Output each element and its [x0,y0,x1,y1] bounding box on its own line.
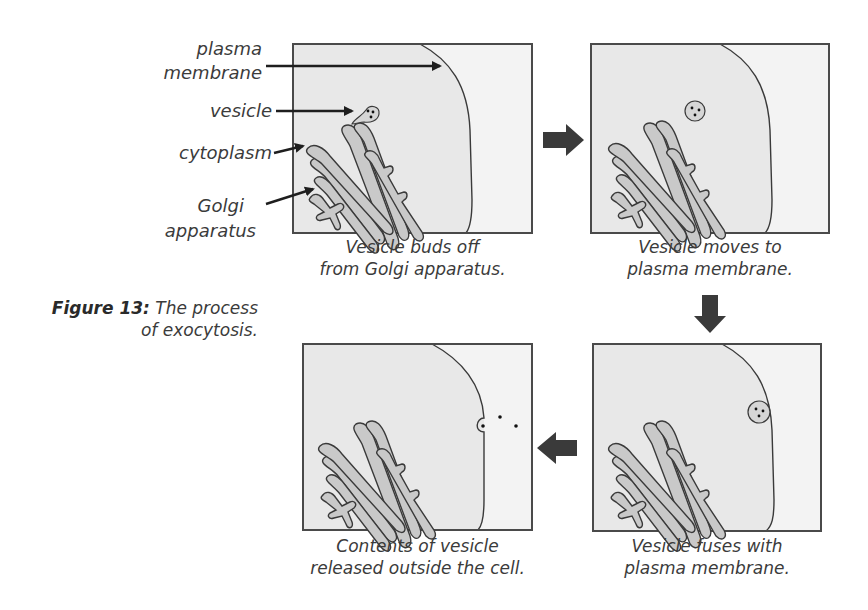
panel-2-caption: Vesicle moves to plasma membrane. [591,236,829,280]
figure-caption-line1: Figure 13: The process [52,297,258,319]
panel-2-caption-line1: Vesicle moves to [591,236,829,258]
fusing-vesicle-icon [748,401,770,423]
label-membrane: membrane [164,62,262,84]
figure-number: Figure 13: [52,298,150,318]
label-plasma: plasma [197,38,262,60]
panel-4-caption-line2: released outside the cell. [290,557,545,579]
figure-title-part2: of exocytosis. [52,319,258,341]
panel-1-vesicle-buds-off [266,44,532,253]
arrow-left-icon [537,432,577,464]
arrow-right-icon [543,124,584,156]
label-cytoplasm: cytoplasm [179,142,272,164]
vesicle-icon [685,101,705,121]
panel-4-contents-released [303,344,532,551]
figure-title-part1: The process [155,298,258,318]
panel-1-caption-line2: from Golgi apparatus. [293,258,532,280]
panel-1-caption-line1: Vesicle buds off [293,236,532,258]
panel-2-vesicle-moves [591,44,829,251]
panel-2-caption-line2: plasma membrane. [591,258,829,280]
panel-4-caption: Contents of vesicle released outside the… [290,535,545,579]
label-apparatus: apparatus [165,220,256,242]
panel-4-caption-line1: Contents of vesicle [290,535,545,557]
label-vesicle: vesicle [210,100,272,122]
panel-3-vesicle-fuses [593,344,821,551]
panel-1-caption: Vesicle buds off from Golgi apparatus. [293,236,532,280]
panel-3-caption-line2: plasma membrane. [593,557,821,579]
arrow-down-icon [694,295,726,333]
label-golgi: Golgi [198,195,244,217]
panel-3-caption: Vesicle fuses with plasma membrane. [593,535,821,579]
panel-3-caption-line1: Vesicle fuses with [593,535,821,557]
figure-caption: Figure 13: The process of exocytosis. [52,297,258,341]
